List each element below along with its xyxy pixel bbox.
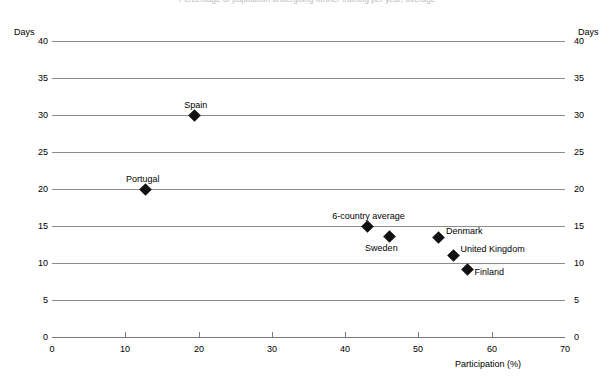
y-axis-right-tick-label: 30 [574,111,600,120]
data-point-marker[interactable] [383,230,396,243]
y-axis-right-tick-label: 25 [574,148,600,157]
y-axis-left-tick-label: 35 [22,74,48,83]
y-axis-right-tick-label: 5 [574,296,600,305]
y-axis-left-tick-label: 15 [22,222,48,231]
x-axis-tick-label: 60 [472,345,512,354]
x-axis-tick [199,332,200,337]
x-axis-tick-label: 0 [32,345,72,354]
y-axis-right-tick-label: 0 [574,333,600,342]
y-axis-left-tick-label: 25 [22,148,48,157]
y-axis-right-tick-label: 35 [574,74,600,83]
data-point-marker[interactable] [447,249,460,262]
gridline-y [52,152,565,153]
gridline-y [52,78,565,79]
gridline-y [52,115,565,116]
data-point-label: Spain [184,101,207,110]
data-point-label: Sweden [365,244,398,253]
y-axis-right-tick-label: 15 [574,222,600,231]
data-point-label: United Kingdom [461,245,525,254]
x-axis-tick [492,332,493,337]
gridline-y [52,41,565,42]
data-point-label: Finland [475,268,505,277]
gridline-y [52,189,565,190]
data-point-label: Portugal [126,175,160,184]
x-axis-tick-label: 70 [545,345,585,354]
y-axis-left-tick-label: 20 [22,185,48,194]
x-axis-tick [125,332,126,337]
data-point-marker[interactable] [139,183,152,196]
y-axis-left-tick-label: 0 [22,333,48,342]
y-axis-left-tick-label: 10 [22,259,48,268]
x-axis-tick-label: 50 [398,345,438,354]
x-axis-tick-label: 30 [252,345,292,354]
gridline-y [52,263,565,264]
x-axis-tick-label: 10 [105,345,145,354]
data-point-marker[interactable] [433,231,446,244]
chart-container: Percentage of population undergoing furt… [0,0,614,384]
y-axis-right-tick-label: 20 [574,185,600,194]
y-axis-right-tick-label: 40 [574,37,600,46]
x-axis-tick-label: 20 [179,345,219,354]
gridline-y [52,226,565,227]
y-axis-left-tick-label: 5 [22,296,48,305]
x-axis-tick [272,332,273,337]
x-axis-tick [418,332,419,337]
data-point-marker[interactable] [461,263,474,276]
x-axis-tick-label: 40 [325,345,365,354]
y-axis-left-tick-label: 40 [22,37,48,46]
data-point-marker[interactable] [188,109,201,122]
data-point-marker[interactable] [361,220,374,233]
x-axis-line [52,337,565,338]
plot-area: 0055101015152020252530303535404001020304… [0,0,614,384]
data-point-label: 6-country average [332,212,405,221]
x-axis-title: Participation (%) [455,360,521,369]
data-point-label: Denmark [446,227,483,236]
gridline-y [52,300,565,301]
y-axis-left-tick-label: 30 [22,111,48,120]
y-axis-right-tick-label: 10 [574,259,600,268]
x-axis-tick [345,332,346,337]
